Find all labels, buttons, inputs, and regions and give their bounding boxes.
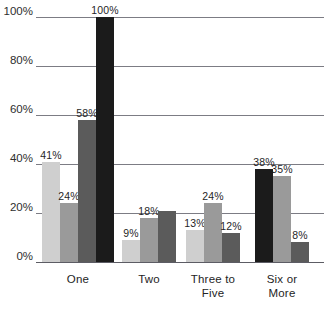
bar — [158, 211, 176, 262]
y-axis-tick-label: 0% — [0, 251, 33, 262]
bar-chart: 0%20%40%60%80%100% 41%24%58%100%9%18%13%… — [0, 0, 328, 309]
bar — [255, 169, 273, 262]
bar — [291, 242, 309, 262]
plot-area: 41%24%58%100%9%18%13%24%12%38%35%8% — [36, 17, 324, 262]
bar-value-label: 8% — [285, 230, 315, 240]
bar — [60, 203, 78, 262]
gridline-0 — [36, 262, 324, 263]
bar — [122, 240, 140, 262]
y-axis-tick-label: 100% — [0, 6, 33, 17]
x-axis-category-label: Six or More — [237, 272, 327, 300]
y-axis-tick-label: 20% — [0, 202, 33, 213]
y-axis-tick-label: 80% — [0, 55, 33, 66]
bar-value-label: 24% — [198, 191, 228, 201]
bar — [96, 17, 114, 262]
y-axis: 0%20%40%60%80%100% — [0, 0, 36, 309]
bar — [140, 218, 158, 262]
bar-value-label: 12% — [216, 221, 246, 231]
bar-value-label: 41% — [36, 150, 66, 160]
gridline-100 — [36, 17, 324, 18]
bar — [186, 230, 204, 262]
bar — [204, 203, 222, 262]
gridline-80 — [36, 66, 324, 67]
bar — [273, 176, 291, 262]
bar-value-label: 35% — [267, 164, 297, 174]
bar — [78, 120, 96, 262]
bar-value-label: 100% — [90, 5, 120, 15]
bar — [42, 162, 60, 262]
y-axis-tick-label: 40% — [0, 153, 33, 164]
bar — [222, 233, 240, 262]
y-axis-tick-label: 60% — [0, 104, 33, 115]
